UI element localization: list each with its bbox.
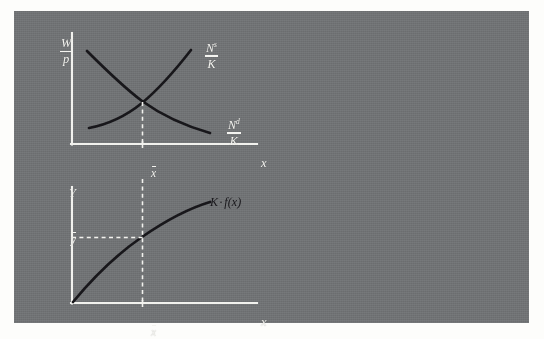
labor-supply-numerator: Ns (205, 41, 218, 55)
production-x-axis-label: x (261, 316, 267, 329)
kfx-function: f(x) (224, 195, 241, 209)
labor-demand-curve-label: Nd K (227, 118, 241, 147)
labor-supply-curve (89, 50, 191, 128)
production-y-axis-label: Y (69, 187, 76, 200)
production-function-curve (73, 202, 210, 302)
labor-demand-numerator: Nd (227, 118, 241, 132)
labor-supply-denominator: K (206, 57, 216, 70)
figure-screenshot: W p x Ns K Nd K x (0, 0, 544, 339)
w-over-p-numerator: W (60, 37, 73, 50)
production-ybar-label: y (71, 224, 76, 246)
production-xbar-label: x (151, 317, 156, 339)
xbar-character: x (151, 168, 156, 180)
production-function-curve-label: K·f(x) (210, 196, 241, 208)
labor-market-xbar-label: x (151, 158, 156, 180)
kfx-prefix: K (210, 195, 218, 209)
figure-vector-layer (14, 11, 529, 323)
labor-market-y-axis-label: W p (60, 37, 73, 66)
labor-market-x-axis-label: x (261, 157, 267, 170)
labor-supply-superscript: s (214, 40, 217, 49)
labor-demand-curve (87, 51, 210, 133)
labor-supply-curve-label: Ns K (205, 41, 218, 70)
ybar-character: y (71, 234, 76, 246)
labor-demand-denominator: K (229, 134, 239, 147)
xbar-character: x (151, 327, 156, 339)
labor-demand-superscript: d (236, 117, 240, 126)
figure-panel: W p x Ns K Nd K x (14, 11, 529, 323)
w-over-p-denominator: p (62, 53, 70, 66)
